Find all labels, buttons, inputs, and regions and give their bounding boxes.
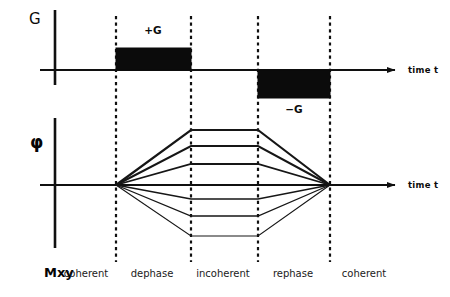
phase-time-label: time t (408, 180, 438, 190)
canvas-background (0, 0, 450, 297)
negative-gradient-block (258, 70, 330, 98)
gradient-echo-diagram: G +G −G time t φ time t Mxy coherent dep… (0, 0, 450, 297)
caption-coherent-left: coherent (64, 268, 108, 279)
gradient-axis-label: G (29, 10, 41, 28)
caption-rephase: rephase (273, 268, 313, 279)
caption-coherent-right: coherent (342, 268, 386, 279)
phase-axis-label: φ (30, 132, 43, 152)
diagram-canvas: G +G −G time t φ time t Mxy coherent dep… (0, 0, 450, 297)
positive-gradient-block (116, 48, 191, 70)
positive-gradient-label: +G (144, 24, 161, 36)
gradient-time-label: time t (408, 65, 438, 75)
caption-incoherent: incoherent (196, 268, 250, 279)
caption-dephase: dephase (131, 268, 174, 279)
negative-gradient-label: −G (285, 103, 302, 115)
